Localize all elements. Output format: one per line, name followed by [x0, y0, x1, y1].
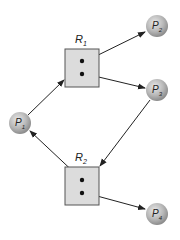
- resource-r2: R2: [65, 151, 99, 205]
- resource-allocation-graph: R1 R2 P1 P2 P3 P4: [0, 0, 180, 240]
- edge-p3-to-r2: [100, 100, 150, 166]
- resource-r1-label: R1: [75, 33, 87, 47]
- resource-r1: R1: [65, 33, 99, 87]
- process-p4: P4: [146, 203, 168, 225]
- resource-r2-instance-2: [80, 191, 84, 195]
- resource-r2-instance-1: [80, 178, 84, 182]
- process-p1: P1: [9, 112, 31, 134]
- process-p3: P3: [146, 79, 168, 101]
- resource-r2-label: R2: [75, 151, 87, 165]
- resource-r1-box: [65, 49, 99, 87]
- process-p2: P2: [146, 15, 168, 37]
- resource-r1-instance-2: [80, 72, 84, 76]
- edge-p1-to-r1: [28, 80, 64, 115]
- resource-r2-box: [65, 167, 99, 205]
- resource-r1-instance-1: [80, 59, 84, 63]
